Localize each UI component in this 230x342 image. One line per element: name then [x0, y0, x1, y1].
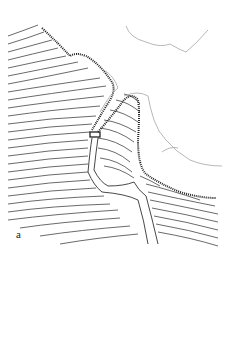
- panel-label: a: [16, 228, 21, 240]
- diagram-canvas: [0, 0, 230, 342]
- channel: [88, 132, 158, 244]
- hachure-lines-right: [98, 94, 218, 246]
- crest-dotted-lines: [42, 28, 216, 198]
- coastline-lines: [100, 26, 222, 166]
- hachure-lines-left: [8, 25, 138, 244]
- structure-rectangle: [90, 132, 100, 137]
